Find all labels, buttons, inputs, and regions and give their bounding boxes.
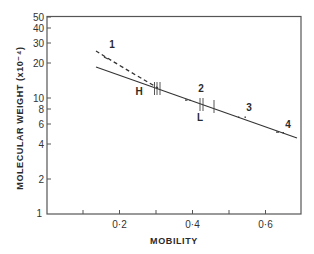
y-tick-1: 1 — [36, 208, 42, 219]
y-tick-50: 50 — [33, 12, 45, 23]
y-tick-4: 4 — [38, 139, 44, 150]
l-band-bars — [200, 98, 214, 113]
band-1-mark — [104, 57, 108, 59]
y-axis-title: MOLECULAR WEIGHT (x10⁻⁴) — [15, 46, 25, 189]
x-tick-0.4: 0·4 — [185, 219, 200, 230]
y-tick-6: 6 — [38, 119, 44, 130]
x-axis-tick-labels: 0·2 0·4 0·6 — [112, 219, 273, 230]
y-tick-30: 30 — [33, 38, 45, 49]
annotation-L: L — [197, 112, 203, 123]
plot-frame — [47, 17, 301, 215]
x-tick-0.2: 0·2 — [112, 219, 127, 230]
annotation-H: H — [135, 86, 142, 97]
annotations: 1 H 2 L 3 4 — [109, 39, 291, 130]
chart: 50 40 30 20 10 8 6 4 2 1 0·2 0·4 0·6 MOB… — [0, 0, 314, 254]
annotation-3: 3 — [246, 102, 252, 113]
solid-regression-line — [96, 67, 297, 138]
annotation-1: 1 — [109, 39, 115, 50]
y-tick-8: 8 — [38, 104, 44, 115]
y-tick-2: 2 — [38, 174, 44, 185]
dashed-curve — [96, 51, 158, 88]
x-tick-0.6: 0·6 — [258, 219, 273, 230]
y-tick-40: 40 — [33, 23, 45, 34]
annotation-2: 2 — [198, 83, 204, 94]
annotation-4: 4 — [285, 119, 291, 130]
x-axis-ticks — [83, 210, 266, 214]
y-axis-tick-labels: 50 40 30 20 10 8 6 4 2 1 — [33, 12, 45, 219]
y-tick-10: 10 — [33, 93, 45, 104]
y-tick-20: 20 — [33, 58, 45, 69]
x-axis-title: MOBILITY — [150, 236, 198, 246]
